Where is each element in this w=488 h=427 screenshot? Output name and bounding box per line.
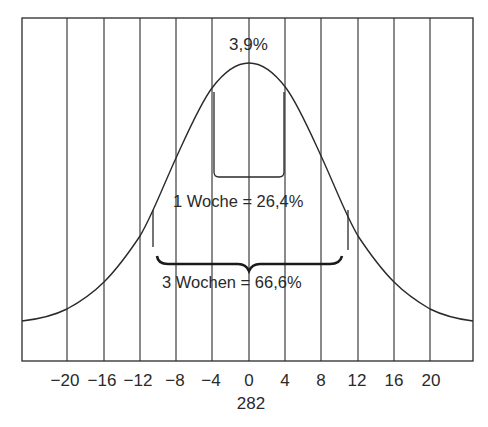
three-weeks-label: 3 Wochen = 66,6% [162, 274, 302, 291]
peak-value-label: 3,9% [229, 36, 268, 53]
one-week-label: 1 Woche = 26,4% [173, 193, 303, 210]
x-tick: −12 [124, 372, 153, 389]
x-tick: −20 [51, 372, 80, 389]
center-value-label: 282 [237, 395, 265, 412]
x-tick: 20 [422, 372, 441, 389]
plot-frame [22, 18, 473, 361]
x-tick: −4 [201, 372, 220, 389]
x-tick: 12 [348, 372, 367, 389]
bell-curve-chart [0, 0, 488, 427]
x-tick: 16 [385, 372, 404, 389]
x-tick: −16 [88, 372, 117, 389]
x-tick: 8 [316, 372, 325, 389]
x-tick: −8 [165, 372, 184, 389]
grid-lines [67, 18, 430, 361]
x-tick: 0 [244, 372, 253, 389]
x-tick: 4 [280, 372, 289, 389]
